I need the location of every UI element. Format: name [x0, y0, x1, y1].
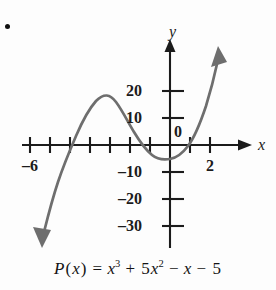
y-tick-label-neg30: –30 [118, 218, 142, 234]
x-tick-label-neg6: –6 [22, 158, 38, 174]
equation-term-2-sign: + [125, 259, 137, 278]
equation-argument: x [72, 259, 80, 278]
x-axis-arrowhead-icon [238, 140, 252, 151]
equation-term-3-sign: − [168, 259, 180, 278]
polynomial-graph-figure: 20 10 –10 –20 –30 0 –6 2 y x P(x) = x3 +… [0, 0, 276, 290]
y-tick-label-10: 10 [126, 110, 142, 126]
equation-term-3-variable: x [184, 259, 192, 278]
y-axis-arrowhead-icon [165, 39, 176, 52]
equation-term-1-exponent: 3 [115, 258, 120, 269]
equation-equals: = [92, 259, 104, 278]
equation-term-2-exponent: 2 [158, 258, 163, 269]
cartesian-plot [0, 0, 276, 290]
origin-label: 0 [174, 124, 182, 140]
equation-term-4-coefficient: 5 [211, 259, 222, 278]
equation-term-2-coefficient: 5 [140, 259, 151, 278]
equation-term-1-variable: x [107, 259, 115, 278]
y-tick-label-20: 20 [126, 83, 142, 99]
curve-arrowhead-left-icon [33, 227, 51, 248]
x-axis-label: x [258, 137, 265, 153]
y-tick-label-neg20: –20 [118, 191, 142, 207]
y-axis-label: y [169, 24, 176, 40]
curve-arrowhead-right-icon [211, 46, 227, 67]
y-tick-label-neg10: –10 [118, 164, 142, 180]
equation-function-name: P [54, 259, 64, 278]
equation-term-4-sign: − [196, 259, 208, 278]
x-tick-label-2: 2 [206, 158, 214, 174]
function-equation-caption: P(x) = x3 + 5x2 − x − 5 [0, 258, 276, 279]
